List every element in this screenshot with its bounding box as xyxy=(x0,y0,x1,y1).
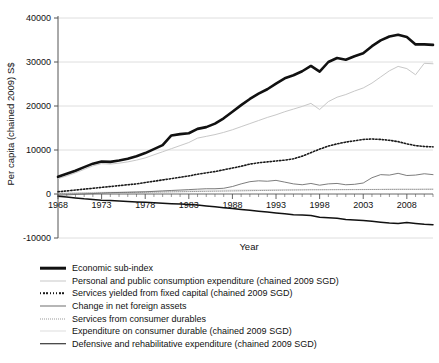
y-tick-label: 40000 xyxy=(26,13,51,23)
x-tick-label: 1983 xyxy=(179,200,199,210)
x-tick-label: 2003 xyxy=(353,200,373,210)
x-tick-label: 1998 xyxy=(310,200,330,210)
x-tick-label: 1988 xyxy=(222,200,242,210)
chart-legend: Economic sub-indexPersonal and public co… xyxy=(40,262,439,350)
x-tick-label: 1973 xyxy=(92,200,112,210)
legend-label: Defensive and rehabilitative expenditure… xyxy=(72,339,317,349)
y-axis-title: Per capita (chained 2009) S$ xyxy=(5,62,16,186)
legend-item[interactable]: Economic sub-index xyxy=(40,262,439,275)
legend-item[interactable]: Change in net foreign assets xyxy=(40,300,439,313)
legend-item[interactable]: Services yielded from fixed capital (cha… xyxy=(40,287,439,300)
legend-label: Change in net foreign assets xyxy=(72,301,187,311)
y-tick-label: 20000 xyxy=(26,101,51,111)
x-tick-label: 1978 xyxy=(135,200,155,210)
y-tick-label: 30000 xyxy=(26,57,51,67)
legend-item[interactable]: Personal and public consumption expendit… xyxy=(40,275,439,288)
x-axis-title: Year xyxy=(239,241,258,252)
y-tick-label: -10000 xyxy=(23,233,51,243)
legend-swatch-icon xyxy=(40,339,66,349)
x-axis-ticks xyxy=(58,194,433,199)
legend-label: Services from consumer durables xyxy=(72,314,206,324)
legend-swatch-icon xyxy=(40,314,66,324)
legend-item[interactable]: Expenditure on consumer durable (chained… xyxy=(40,325,439,338)
legend-label: Economic sub-index xyxy=(72,263,153,273)
grid-lines xyxy=(58,18,433,238)
axis-lines xyxy=(58,16,433,238)
x-tick-label: 1968 xyxy=(48,200,68,210)
y-tick-label: 0 xyxy=(46,189,51,199)
x-tick-label: 1993 xyxy=(266,200,286,210)
legend-swatch-icon xyxy=(40,276,66,286)
series-line xyxy=(58,139,433,192)
legend-swatch-icon xyxy=(40,263,66,273)
chart-figure: 400003000020000100000-10000 196819731978… xyxy=(0,0,439,363)
legend-label: Services yielded from fixed capital (cha… xyxy=(72,288,293,298)
legend-swatch-icon xyxy=(40,288,66,298)
x-axis-tick-labels: 196819731978198319881993199820032008 xyxy=(48,200,417,210)
legend-label: Personal and public consumption expendit… xyxy=(72,276,339,286)
legend-item[interactable]: Services from consumer durables xyxy=(40,312,439,325)
data-series-layer xyxy=(58,35,433,225)
legend-item[interactable]: Defensive and rehabilitative expenditure… xyxy=(40,338,439,351)
y-tick-label: 10000 xyxy=(26,145,51,155)
legend-swatch-icon xyxy=(40,326,66,336)
legend-label: Expenditure on consumer durable (chained… xyxy=(72,326,292,336)
legend-swatch-icon xyxy=(40,301,66,311)
x-tick-label: 2008 xyxy=(397,200,417,210)
series-line xyxy=(58,196,433,225)
